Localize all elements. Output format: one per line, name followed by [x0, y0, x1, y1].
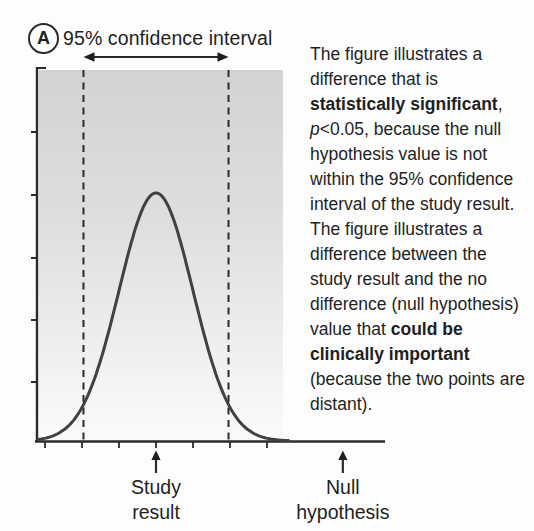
null-hypothesis-label-line1: Null: [296, 475, 389, 500]
study-arrowhead: [151, 451, 160, 461]
null-arrowhead: [338, 451, 347, 461]
study-result-label-line1: Study: [131, 475, 181, 500]
null-hypothesis-label: Null hypothesis: [296, 475, 389, 524]
ci-arrowhead-right: [218, 52, 229, 62]
distribution-curve: [38, 193, 288, 441]
explanation-text: The figure illustrates adifference that …: [310, 42, 534, 417]
ci-title: 95% confidence interval: [63, 27, 272, 50]
study-result-label: Study result: [131, 475, 181, 524]
ci-arrowhead-left: [83, 52, 94, 62]
null-hypothesis-label-line2: hypothesis: [296, 500, 389, 525]
panel-label-badge: A: [28, 23, 59, 54]
panel-label-text: A: [37, 28, 50, 49]
study-result-label-line2: result: [131, 500, 181, 525]
